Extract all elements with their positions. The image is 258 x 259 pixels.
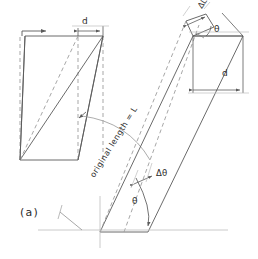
force-arrow-top bbox=[22, 31, 46, 36]
left-diagonal-dashed bbox=[20, 36, 78, 160]
dimension-d-right bbox=[188, 32, 249, 93]
label-theta-bottom: θ bbox=[132, 196, 138, 206]
left-edge-inner bbox=[20, 36, 25, 160]
shear-deformation-figure bbox=[0, 0, 258, 259]
label-d-right: d bbox=[222, 68, 228, 78]
left-original-block bbox=[20, 36, 103, 160]
dimension-d-top bbox=[72, 26, 109, 36]
label-theta-top: θ bbox=[214, 24, 220, 34]
delta-l-tip-block bbox=[186, 14, 214, 36]
label-delta-theta: Δθ bbox=[156, 168, 168, 178]
label-d-top: d bbox=[82, 16, 88, 26]
figure-caption: (a) bbox=[20, 206, 39, 219]
